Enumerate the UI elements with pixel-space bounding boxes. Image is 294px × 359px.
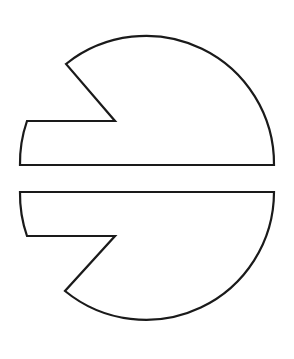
upper-notched-semicircle [20,36,274,165]
diagram-canvas [0,0,294,359]
lower-notched-semicircle [20,192,274,320]
split-circle-diagram [0,0,294,359]
